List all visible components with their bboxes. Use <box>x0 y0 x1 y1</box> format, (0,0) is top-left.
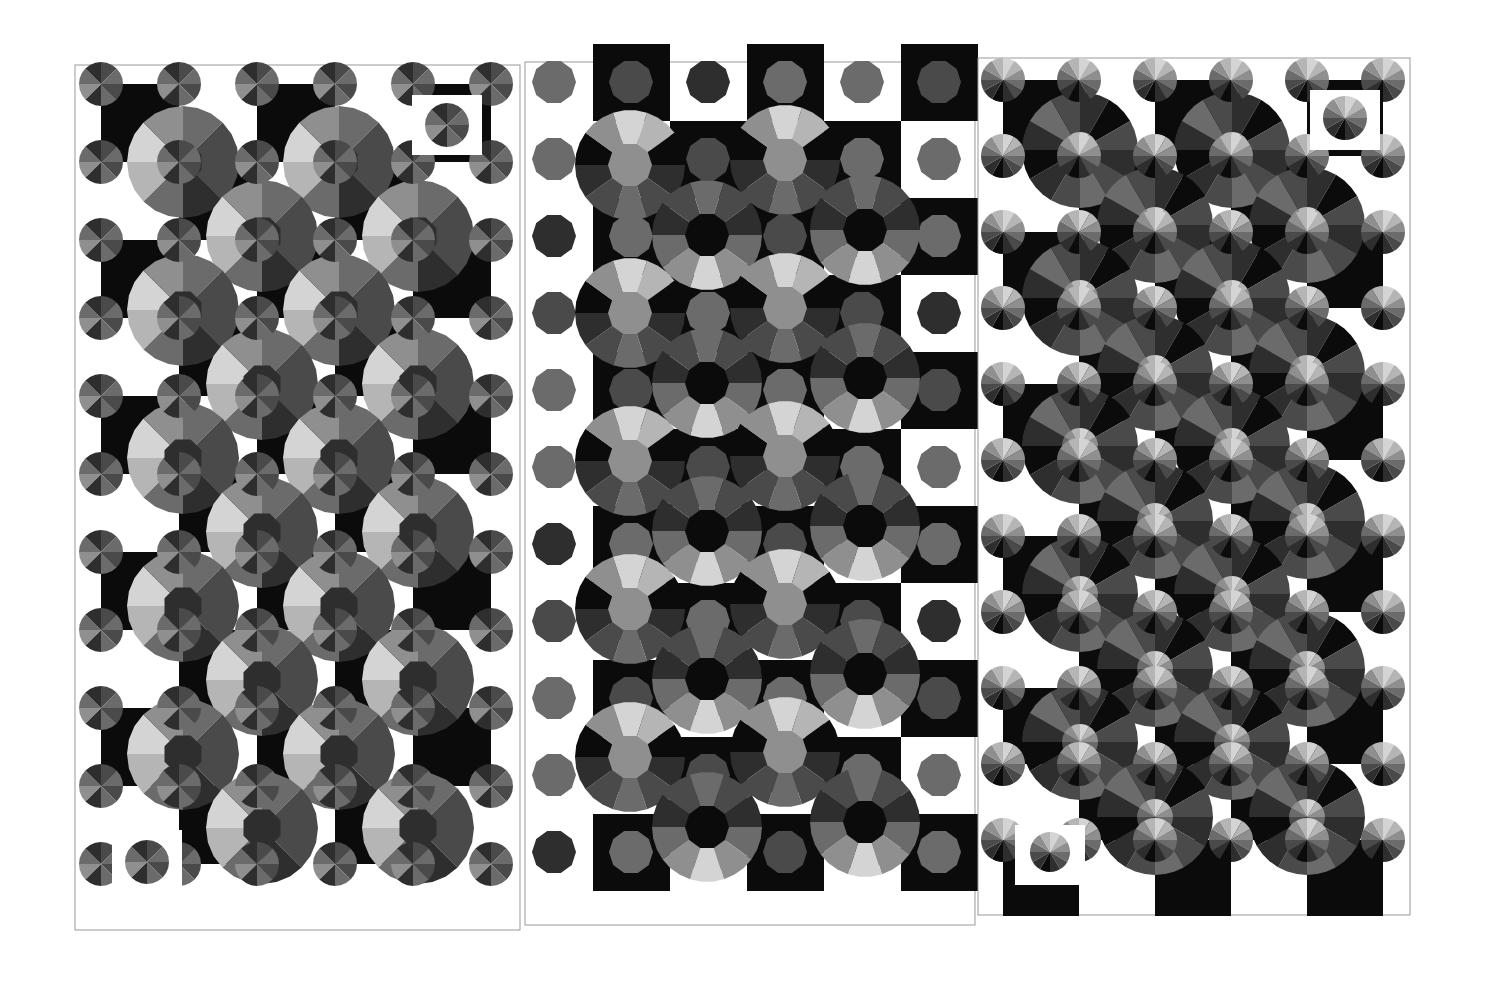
geometric-artwork <box>0 0 1493 982</box>
left-panel <box>75 62 520 930</box>
middle-panel <box>525 44 978 925</box>
right-panel <box>978 58 1410 916</box>
